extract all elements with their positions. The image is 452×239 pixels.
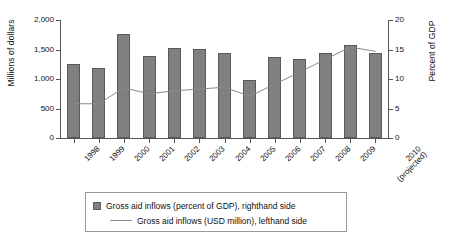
x-axis-tick-sublabel: (projected) <box>397 151 430 184</box>
legend-label-bars: Gross aid inflows (percent of GDP), righ… <box>106 201 295 211</box>
x-axis-tick-label: 2004 <box>234 145 253 164</box>
x-axis-tick-label: 2008 <box>334 145 353 164</box>
y-axis-right-tick-label: 15 <box>395 46 404 54</box>
x-axis-tick <box>350 139 351 143</box>
x-axis-tick <box>325 139 326 143</box>
y-axis-right-tick-label: 20 <box>395 16 404 24</box>
legend-label-line: Gross aid inflows (USD million), lefthan… <box>137 216 307 226</box>
x-axis-tick <box>250 139 251 143</box>
x-axis-tick-label: 1999 <box>108 145 127 164</box>
x-axis-tick-label: 2009 <box>359 145 378 164</box>
legend-line-swatch-icon <box>110 220 132 221</box>
x-axis-tick <box>174 139 175 143</box>
x-axis-tick-label: 2010(projected) <box>391 145 430 184</box>
x-axis-tick <box>99 139 100 143</box>
y-axis-left-tick-label: 500 <box>41 105 54 113</box>
y-axis-left-tick-label: 0 <box>50 134 54 142</box>
x-axis-tick-label: 2006 <box>284 145 303 164</box>
x-axis-tick <box>375 139 376 143</box>
y-axis-left-tick-label: 1,000 <box>34 75 54 83</box>
legend-item-bars: Gross aid inflows (percent of GDP), righ… <box>93 198 340 213</box>
x-axis-tick-label: 2000 <box>133 145 152 164</box>
x-axis-tick <box>300 139 301 143</box>
y-axis-right-tick-label: 10 <box>395 75 404 83</box>
y-axis-right-tick <box>389 79 393 80</box>
x-axis-tick-label: 2003 <box>209 145 228 164</box>
x-axis-tick-label: 1998 <box>83 145 102 164</box>
y-axis-left-tick <box>56 79 60 80</box>
legend-item-line: Gross aid inflows (USD million), lefthan… <box>93 213 340 228</box>
y-axis-left-tick-label: 2,000 <box>34 16 54 24</box>
y-axis-right-tick <box>389 109 393 110</box>
y-axis-left-tick <box>56 20 60 21</box>
y-axis-left-tick <box>56 50 60 51</box>
chart-container: Millions of dollars Percent of GDP 05001… <box>0 0 452 239</box>
x-axis-tick <box>124 139 125 143</box>
y-axis-right-tick <box>389 138 393 139</box>
y-axis-left-tick <box>56 138 60 139</box>
x-axis-tick-label: 2005 <box>259 145 278 164</box>
x-axis-tick <box>225 139 226 143</box>
y-axis-right-title: Percent of GDP <box>427 13 437 89</box>
line-series <box>61 20 388 138</box>
line-path <box>74 47 376 104</box>
x-axis-tick <box>149 139 150 143</box>
y-axis-left-title: Millions of dollars <box>6 15 16 91</box>
x-axis-tick <box>275 139 276 143</box>
x-axis-tick-label: 2002 <box>183 145 202 164</box>
x-axis-tick <box>199 139 200 143</box>
y-axis-left-tick-label: 1,500 <box>34 46 54 54</box>
x-axis-tick-label: 2007 <box>309 145 328 164</box>
y-axis-right-tick-label: 0 <box>395 134 399 142</box>
legend-square-swatch-icon <box>93 202 101 210</box>
y-axis-left-tick <box>56 109 60 110</box>
plot-area: 05001,0001,5002,000 05101520 19981999200… <box>61 20 388 138</box>
chart-legend: Gross aid inflows (percent of GDP), righ… <box>85 192 347 232</box>
y-axis-right-tick <box>389 20 393 21</box>
y-axis-right-tick-label: 5 <box>395 105 399 113</box>
x-axis-tick <box>74 139 75 143</box>
y-axis-right-tick <box>389 50 393 51</box>
x-axis-tick-label: 2001 <box>158 145 177 164</box>
